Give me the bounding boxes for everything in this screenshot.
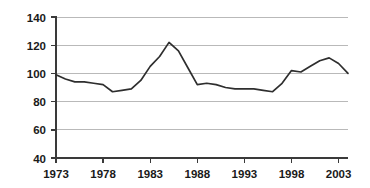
line-chart: 140 120 100 80 60 40 1973 1978 1983 1988…: [0, 0, 370, 188]
x-tick-label-1998: 1998: [279, 168, 305, 180]
y-axis: [51, 16, 56, 159]
x-tick-label-1973: 1973: [43, 168, 69, 180]
x-tick-label-2003: 2003: [326, 168, 352, 180]
y-tick-label-140: 140: [27, 12, 46, 24]
x-axis: [56, 158, 348, 163]
y-tick-labels: 140 120 100 80 60 40: [27, 12, 46, 165]
y-tick-label-100: 100: [27, 68, 46, 80]
x-tick-label-1978: 1978: [90, 168, 116, 180]
y-tick-label-80: 80: [33, 96, 46, 108]
x-tick-label-1988: 1988: [185, 168, 211, 180]
chart-plot-area: 140 120 100 80 60 40 1973 1978 1983 1988…: [0, 0, 370, 188]
gridlines: [56, 17, 348, 130]
data-series-line: [56, 42, 348, 91]
y-tick-label-120: 120: [27, 40, 46, 52]
x-tick-label-1983: 1983: [137, 168, 163, 180]
x-tick-labels: 1973 1978 1983 1988 1993 1998 2003: [43, 168, 351, 180]
x-tick-label-1993: 1993: [232, 168, 258, 180]
y-tick-label-40: 40: [33, 153, 46, 165]
y-tick-label-60: 60: [33, 124, 46, 136]
